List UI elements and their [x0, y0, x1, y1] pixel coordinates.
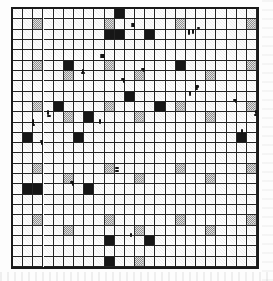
- grid-cell-empty[interactable]: [54, 92, 64, 102]
- grid-cell-empty[interactable]: [145, 195, 155, 205]
- grid-cell-empty[interactable]: [186, 246, 196, 256]
- grid-cell-empty[interactable]: [227, 123, 237, 133]
- grid-cell-empty[interactable]: [115, 226, 125, 236]
- grid-cell-empty[interactable]: [237, 257, 247, 267]
- grid-cell-empty[interactable]: [13, 164, 23, 174]
- grid-cell-empty[interactable]: [196, 226, 206, 236]
- grid-cell-empty[interactable]: [13, 153, 23, 163]
- grid-cell-empty[interactable]: [115, 112, 125, 122]
- grid-cell-empty[interactable]: [145, 226, 155, 236]
- grid-cell-gray[interactable]: [206, 71, 216, 81]
- grid-cell-empty[interactable]: [105, 195, 115, 205]
- grid-cell-empty[interactable]: [196, 174, 206, 184]
- grid-cell-empty[interactable]: [247, 205, 257, 215]
- grid-cell-empty[interactable]: [44, 153, 54, 163]
- grid-cell-empty[interactable]: [145, 246, 155, 256]
- grid-cell-empty[interactable]: [64, 153, 74, 163]
- grid-cell-empty[interactable]: [94, 123, 104, 133]
- grid-cell-gray[interactable]: [176, 164, 186, 174]
- grid-cell-empty[interactable]: [166, 81, 176, 91]
- grid-cell-empty[interactable]: [186, 174, 196, 184]
- grid-cell-empty[interactable]: [176, 257, 186, 267]
- grid-cell-filled[interactable]: [145, 30, 155, 40]
- grid-cell-empty[interactable]: [206, 257, 216, 267]
- grid-cell-empty[interactable]: [23, 50, 33, 60]
- grid-cell-empty[interactable]: [135, 205, 145, 215]
- grid-cell-empty[interactable]: [196, 92, 206, 102]
- grid-cell-empty[interactable]: [74, 257, 84, 267]
- grid-cell-empty[interactable]: [23, 81, 33, 91]
- grid-cell-empty[interactable]: [196, 102, 206, 112]
- grid-cell-empty[interactable]: [84, 9, 94, 19]
- grid-cell-empty[interactable]: [54, 71, 64, 81]
- grid-cell-empty[interactable]: [44, 205, 54, 215]
- grid-cell-empty[interactable]: [44, 123, 54, 133]
- grid-cell-empty[interactable]: [74, 174, 84, 184]
- grid-cell-gray[interactable]: [105, 164, 115, 174]
- grid-cell-empty[interactable]: [74, 102, 84, 112]
- grid-cell-empty[interactable]: [206, 30, 216, 40]
- grid-cell-empty[interactable]: [237, 195, 247, 205]
- grid-cell-empty[interactable]: [54, 30, 64, 40]
- grid-cell-empty[interactable]: [186, 143, 196, 153]
- grid-cell-empty[interactable]: [105, 184, 115, 194]
- grid-cell-empty[interactable]: [186, 153, 196, 163]
- grid-cell-empty[interactable]: [206, 184, 216, 194]
- grid-cell-empty[interactable]: [247, 226, 257, 236]
- grid-cell-empty[interactable]: [23, 257, 33, 267]
- grid-cell-empty[interactable]: [206, 40, 216, 50]
- grid-cell-empty[interactable]: [94, 236, 104, 246]
- grid-cell-empty[interactable]: [227, 50, 237, 60]
- grid-cell-empty[interactable]: [13, 102, 23, 112]
- grid-cell-empty[interactable]: [74, 92, 84, 102]
- grid-cell-empty[interactable]: [196, 205, 206, 215]
- grid-cell-empty[interactable]: [33, 71, 43, 81]
- grid-cell-filled[interactable]: [105, 30, 115, 40]
- grid-cell-empty[interactable]: [186, 215, 196, 225]
- grid-cell-empty[interactable]: [125, 133, 135, 143]
- grid-cell-empty[interactable]: [247, 81, 257, 91]
- grid-cell-empty[interactable]: [23, 246, 33, 256]
- grid-cell-empty[interactable]: [216, 184, 226, 194]
- grid-cell-gray[interactable]: [247, 19, 257, 29]
- grid-cell-empty[interactable]: [145, 50, 155, 60]
- grid-cell-empty[interactable]: [33, 153, 43, 163]
- grid-cell-empty[interactable]: [84, 226, 94, 236]
- grid-cell-empty[interactable]: [105, 112, 115, 122]
- grid-cell-empty[interactable]: [115, 143, 125, 153]
- grid-cell-empty[interactable]: [135, 19, 145, 29]
- grid-cell-empty[interactable]: [13, 112, 23, 122]
- grid-cell-empty[interactable]: [135, 81, 145, 91]
- grid-cell-empty[interactable]: [216, 257, 226, 267]
- grid-cell-empty[interactable]: [23, 205, 33, 215]
- grid-cell-empty[interactable]: [33, 9, 43, 19]
- grid-cell-empty[interactable]: [186, 195, 196, 205]
- grid-cell-empty[interactable]: [44, 61, 54, 71]
- grid-cell-empty[interactable]: [13, 19, 23, 29]
- grid-cell-empty[interactable]: [227, 226, 237, 236]
- grid-cell-empty[interactable]: [135, 50, 145, 60]
- grid-cell-empty[interactable]: [227, 205, 237, 215]
- grid-cell-empty[interactable]: [216, 195, 226, 205]
- grid-cell-empty[interactable]: [196, 123, 206, 133]
- grid-cell-empty[interactable]: [247, 153, 257, 163]
- grid-cell-empty[interactable]: [166, 184, 176, 194]
- grid-cell-gray[interactable]: [33, 164, 43, 174]
- grid-cell-empty[interactable]: [155, 9, 165, 19]
- grid-cell-empty[interactable]: [115, 257, 125, 267]
- grid-cell-empty[interactable]: [115, 50, 125, 60]
- grid-cell-empty[interactable]: [247, 50, 257, 60]
- grid-cell-empty[interactable]: [176, 133, 186, 143]
- grid-cell-empty[interactable]: [54, 164, 64, 174]
- grid-cell-empty[interactable]: [216, 226, 226, 236]
- grid-cell-empty[interactable]: [13, 174, 23, 184]
- grid-cell-empty[interactable]: [13, 205, 23, 215]
- grid-cell-empty[interactable]: [84, 143, 94, 153]
- grid-cell-empty[interactable]: [227, 71, 237, 81]
- grid-cell-empty[interactable]: [84, 71, 94, 81]
- grid-cell-gray[interactable]: [176, 19, 186, 29]
- grid-cell-empty[interactable]: [23, 195, 33, 205]
- grid-cell-empty[interactable]: [166, 50, 176, 60]
- grid-cell-empty[interactable]: [94, 205, 104, 215]
- grid-cell-empty[interactable]: [176, 112, 186, 122]
